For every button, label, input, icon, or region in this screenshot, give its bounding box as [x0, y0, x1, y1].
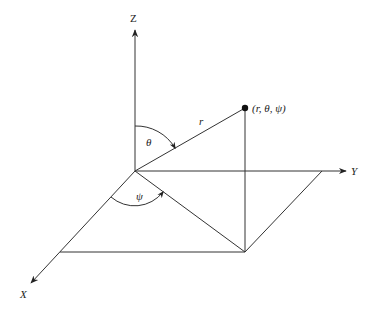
radius-vector: r — [135, 108, 245, 171]
point-label: (r, θ, ψ) — [252, 102, 286, 115]
projection-line — [135, 171, 245, 252]
y-axis: Y — [135, 165, 359, 177]
theta-label: θ — [146, 136, 152, 148]
psi-angle: ψ — [111, 190, 163, 206]
psi-label: ψ — [136, 190, 143, 202]
projection-parallelogram — [60, 171, 322, 252]
radius-label: r — [199, 115, 204, 127]
z-axis: Z — [130, 12, 137, 171]
x-axis-label: X — [19, 288, 28, 300]
point: (r, θ, ψ) — [242, 102, 286, 115]
spherical-coordinates-diagram: Z Y X r (r, θ, ψ) θ ψ — [0, 0, 370, 311]
y-axis-label: Y — [351, 165, 359, 177]
point-marker — [242, 105, 248, 111]
theta-angle: θ — [135, 126, 175, 148]
x-axis: X — [19, 171, 135, 300]
z-axis-label: Z — [130, 12, 137, 24]
